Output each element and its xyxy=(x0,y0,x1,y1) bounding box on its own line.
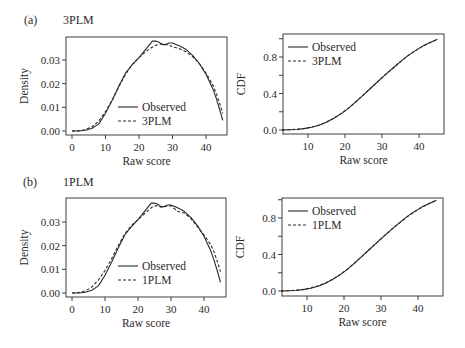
x-axis-label: Raw score xyxy=(122,317,170,329)
chart-b-density: 0102030400.000.010.020.03Raw scoreDensit… xyxy=(18,198,226,329)
chart-b-cdf: 102030400.00.40.8Raw scoreCDFObserved1PL… xyxy=(234,198,443,328)
x-tick-label: 10 xyxy=(302,302,314,314)
x-tick-label: 40 xyxy=(199,303,211,315)
y-tick-label: 0.01 xyxy=(41,263,60,275)
x-axis-label: Raw score xyxy=(338,316,386,328)
x-tick-label: 30 xyxy=(166,303,178,315)
y-tick-label: 0.0 xyxy=(262,285,276,297)
x-tick-label: 30 xyxy=(167,141,179,153)
y-tick-label: 0.02 xyxy=(41,78,60,90)
y-tick-label: 0.0 xyxy=(263,124,277,136)
legend-entry: Observed xyxy=(142,260,186,272)
chart-a-density: 0102030400.000.010.020.03Raw scoreDensit… xyxy=(18,37,227,167)
x-tick-label: 40 xyxy=(414,140,426,152)
plot-frame xyxy=(283,34,444,134)
x-tick-label: 10 xyxy=(100,141,112,153)
y-tick-label: 0.8 xyxy=(263,51,277,63)
series-3plm-line xyxy=(282,39,437,130)
legend-entry: 3PLM xyxy=(312,55,341,67)
y-axis-label: CDF xyxy=(234,236,246,258)
x-tick-label: 30 xyxy=(377,140,389,152)
chart-a-cdf: 102030400.00.40.8Raw scoreCDFObserved3PL… xyxy=(235,34,444,166)
legend-entry: Observed xyxy=(312,41,356,53)
x-axis-label: Raw score xyxy=(339,154,387,166)
y-tick-label: 0.8 xyxy=(262,212,276,224)
x-tick-label: 40 xyxy=(201,141,213,153)
series-observed-line xyxy=(282,39,437,130)
legend-entry: Observed xyxy=(312,205,356,217)
x-tick-label: 20 xyxy=(134,141,146,153)
legend-entry: 3PLM xyxy=(142,115,171,127)
x-tick-label: 20 xyxy=(340,140,352,152)
y-tick-label: 0.00 xyxy=(41,125,61,137)
legend-entry: 1PLM xyxy=(142,274,171,286)
x-tick-label: 0 xyxy=(69,303,75,315)
figure-canvas: 0102030400.000.010.020.03Raw scoreDensit… xyxy=(0,0,465,348)
series-1plm-line xyxy=(281,200,436,291)
plot-frame xyxy=(282,198,443,296)
x-tick-label: 10 xyxy=(303,140,315,152)
y-tick-label: 0.00 xyxy=(41,287,61,299)
y-axis-label: CDF xyxy=(235,73,247,95)
x-tick-label: 30 xyxy=(376,302,388,314)
x-tick-label: 0 xyxy=(69,141,75,153)
series-observed-line xyxy=(281,200,436,291)
legend-entry: 1PLM xyxy=(312,219,341,231)
y-axis-label: Density xyxy=(18,68,31,104)
y-tick-label: 0.03 xyxy=(41,54,61,66)
y-tick-label: 0.4 xyxy=(263,88,277,100)
x-tick-label: 40 xyxy=(413,302,425,314)
y-tick-label: 0.03 xyxy=(41,216,61,228)
y-tick-label: 0.4 xyxy=(262,249,276,261)
y-axis-label: Density xyxy=(18,229,31,265)
x-tick-label: 20 xyxy=(133,303,145,315)
x-tick-label: 10 xyxy=(100,303,112,315)
y-tick-label: 0.01 xyxy=(41,101,60,113)
x-axis-label: Raw score xyxy=(122,155,170,167)
x-tick-label: 20 xyxy=(339,302,351,314)
legend-entry: Observed xyxy=(142,101,186,113)
y-tick-label: 0.02 xyxy=(41,240,60,252)
